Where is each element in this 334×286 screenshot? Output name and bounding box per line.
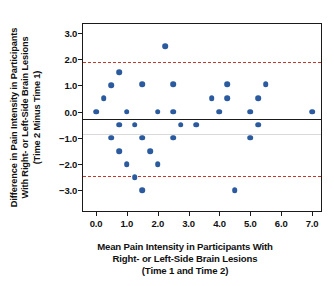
- scatter-plot-figure: Difference in Pain Intensity in Particip…: [0, 0, 334, 286]
- x-axis-tick-label: 6.0: [275, 218, 288, 229]
- data-point: [147, 148, 153, 154]
- x-axis-tick-label: 1.0: [121, 218, 134, 229]
- y-axis-title: Difference in Pain Intensity in Particip…: [0, 23, 54, 212]
- data-point: [116, 148, 122, 154]
- x-axis-tick-label: 0.0: [90, 218, 103, 229]
- y-axis-title-line-1: Difference in Pain Intensity in Particip…: [9, 28, 20, 207]
- y-axis-tick-label: −1.0: [59, 132, 77, 143]
- x-axis-title-line-3: (Time 1 and Time 2): [40, 265, 330, 277]
- y-axis-tick-label: 3.0: [64, 27, 77, 38]
- x-axis-tick: [281, 211, 282, 216]
- y-axis-tick: [78, 85, 83, 86]
- x-axis-tick: [312, 211, 313, 216]
- data-point: [248, 135, 254, 141]
- x-axis-tick-label: 7.0: [306, 218, 319, 229]
- y-axis-tick: [78, 190, 83, 191]
- x-axis-title-line-2: Right- or Left-Side Brain Lesions: [40, 253, 330, 265]
- y-axis-tick: [78, 112, 83, 113]
- data-point: [109, 83, 115, 89]
- y-axis-title-line-2: With Right- or Left-Side Brain Lesions: [20, 36, 31, 198]
- data-point: [232, 187, 238, 193]
- x-axis-tick-label: 3.0: [182, 218, 195, 229]
- x-axis-tick: [158, 211, 159, 216]
- data-point: [217, 109, 223, 115]
- y-axis-tick: [78, 59, 83, 60]
- y-axis-tick-label: −2.0: [59, 159, 77, 170]
- reference-line-upper-limit-of-agreement: [83, 62, 321, 63]
- x-axis-tick: [127, 211, 128, 216]
- data-point: [309, 109, 315, 115]
- data-point: [224, 96, 230, 102]
- data-point: [116, 122, 122, 128]
- x-axis-tick: [250, 211, 251, 216]
- y-axis-tick: [78, 33, 83, 34]
- data-point: [132, 174, 138, 180]
- data-point: [178, 122, 184, 128]
- x-axis-title-line-1: Mean Pain Intensity in Participants With: [40, 241, 330, 253]
- x-axis-title: Mean Pain Intensity in Participants With…: [40, 241, 330, 276]
- data-point: [101, 96, 107, 102]
- reference-line-lower-limit-of-agreement: [83, 176, 321, 177]
- x-axis-tick: [189, 211, 190, 216]
- plot-canvas: [83, 24, 321, 211]
- data-point: [155, 109, 161, 115]
- y-axis-tick-label: −3.0: [59, 185, 77, 196]
- data-point: [93, 109, 99, 115]
- y-axis-tick: [78, 164, 83, 165]
- y-axis-tick: [78, 138, 83, 139]
- data-point: [170, 109, 176, 115]
- data-point: [139, 81, 145, 87]
- reference-line-gridline: [83, 134, 321, 135]
- data-point: [139, 135, 145, 141]
- data-point: [155, 161, 161, 167]
- y-axis-title-line-3: (Time 2 Minus Time 1): [32, 71, 43, 165]
- data-point: [109, 135, 115, 141]
- data-point: [163, 43, 169, 49]
- x-axis-tick: [96, 211, 97, 216]
- x-axis-tick: [219, 211, 220, 216]
- data-point: [170, 81, 176, 87]
- y-axis-tick-label: 0.0: [64, 106, 77, 117]
- data-point: [116, 69, 122, 75]
- reference-line-mean-difference: [83, 119, 321, 120]
- data-point: [132, 122, 138, 128]
- data-point: [139, 187, 145, 193]
- y-axis-tick-label: 1.0: [64, 80, 77, 91]
- data-point: [263, 81, 269, 87]
- data-point: [255, 122, 261, 128]
- data-point: [193, 122, 199, 128]
- x-axis-tick-label: 5.0: [244, 218, 257, 229]
- x-axis-tick-label: 2.0: [151, 218, 164, 229]
- data-point: [124, 109, 130, 115]
- data-point: [248, 109, 254, 115]
- data-point: [255, 96, 261, 102]
- data-point: [209, 96, 215, 102]
- plot-area: 3.02.01.00.0−1.0−2.0−3.00.01.02.03.04.05…: [82, 23, 322, 212]
- data-point: [170, 135, 176, 141]
- data-point: [124, 161, 130, 167]
- x-axis-tick-label: 4.0: [213, 218, 226, 229]
- data-point: [224, 81, 230, 87]
- y-axis-tick-label: 2.0: [64, 54, 77, 65]
